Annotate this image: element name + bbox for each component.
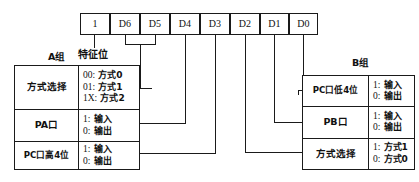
table-row: PA口 1: 输入 0: 输出 xyxy=(15,110,139,142)
group-b-row-pcl-values: 1: 输入 0: 输出 xyxy=(369,76,414,106)
value-code: 0: xyxy=(373,154,380,164)
bit-cell-bit3: D3 xyxy=(200,13,230,35)
value-text: 输入 xyxy=(384,111,402,121)
value-line: 00: 方式0 xyxy=(83,70,123,82)
value-line: 0: 输出 xyxy=(373,91,402,103)
connector-bit4-vertical xyxy=(185,35,186,124)
bit-cell-label: D5 xyxy=(149,19,162,29)
connector-bit2-vertical xyxy=(245,35,246,153)
bit-cell-label: 1 xyxy=(92,19,97,29)
connector-bit2-horizontal xyxy=(245,152,302,153)
value-text: 输入 xyxy=(384,80,402,90)
group-b-row-pb-values: 1: 输入 0: 输出 xyxy=(369,107,414,137)
value-text: 方式0 xyxy=(98,70,122,80)
value-text: 方式1 xyxy=(384,142,408,152)
group-b-row-mode-values: 1: 方式1 0: 方式0 xyxy=(369,139,414,169)
value-text: 输出 xyxy=(384,91,402,101)
group-b-row-pb-name: PB口 xyxy=(303,107,369,137)
connector-bit1-vertical xyxy=(274,35,275,123)
group-b-row-mode-name: 方式选择 xyxy=(303,139,369,169)
bit-cell-label: D4 xyxy=(179,19,192,29)
group-a-row-pa-values: 1: 输入 0: 输出 xyxy=(79,110,139,141)
table-row: PC口低4位 1: 输入 0: 输出 xyxy=(303,76,414,107)
group-a-row-pch-values: 1: 输入 0: 输出 xyxy=(79,142,139,169)
value-code: 1: xyxy=(373,142,380,152)
connector-bit0-tick xyxy=(298,90,299,95)
table-row: PB口 1: 输入 0: 输出 xyxy=(303,107,414,138)
value-code: 1: xyxy=(83,144,90,154)
value-line: 0: 方式0 xyxy=(373,154,408,166)
value-line: 0: 输出 xyxy=(83,156,112,168)
value-code: 1: xyxy=(83,114,90,124)
connector-bit3-vertical xyxy=(215,35,216,154)
feature-bit-label: 特征位 xyxy=(78,50,108,60)
group-a-heading: A组 xyxy=(48,52,65,62)
value-code: 1: xyxy=(373,80,380,90)
bit-cell-bit5: D5 xyxy=(140,13,170,35)
value-text: 输出 xyxy=(384,122,402,132)
group-a-row-mode-values: 00: 方式0 01: 方式1 1X: 方式2 xyxy=(79,66,139,109)
group-a-row-pa-name: PA口 xyxy=(15,110,79,141)
bit-cell-label: D0 xyxy=(297,19,310,29)
value-line: 0: 输出 xyxy=(83,126,112,138)
bit-cell-bit4: D4 xyxy=(170,13,200,35)
bit-cell-bit7: 1 xyxy=(80,13,110,35)
table-row: 方式选择 1: 方式1 0: 方式0 xyxy=(303,139,414,169)
connector-bit3-horizontal xyxy=(140,153,216,154)
value-text: 方式1 xyxy=(98,82,122,92)
group-b-table: PC口低4位 1: 输入 0: 输出 PB口 1: 输入 0: 输出 方式选择 … xyxy=(302,75,415,170)
value-code: 1X: xyxy=(83,93,97,103)
value-line: 1: 方式1 xyxy=(373,142,408,154)
connector-bit1-horizontal xyxy=(274,122,302,123)
value-line: 1: 输入 xyxy=(373,80,402,92)
group-b-row-pcl-name: PC口低4位 xyxy=(303,76,369,106)
value-text: 输出 xyxy=(94,126,112,136)
bit-cell-bit2: D2 xyxy=(230,13,260,35)
connector-mode-a-horizontal xyxy=(140,88,152,89)
diagram-canvas: 1 D6 D5 D4 D3 D2 D1 D0 特征位 A组 xyxy=(0,0,419,182)
value-line: 0: 输出 xyxy=(373,122,402,134)
value-text: 方式0 xyxy=(384,154,408,164)
bit-cell-bit1: D1 xyxy=(260,13,289,35)
bit-cell-label: D6 xyxy=(119,19,132,29)
value-text: 输入 xyxy=(94,114,112,124)
value-code: 0: xyxy=(83,126,90,136)
connector-bit4-horizontal xyxy=(140,123,186,124)
bit-cell-bit6: D6 xyxy=(110,13,140,35)
group-b-heading: B组 xyxy=(352,58,369,68)
value-line: 1X: 方式2 xyxy=(83,93,125,105)
value-line: 1: 输入 xyxy=(83,144,112,156)
connector-bit7-feature xyxy=(94,35,95,48)
value-line: 1: 输入 xyxy=(373,111,402,123)
bit-cell-label: D2 xyxy=(239,19,252,29)
value-text: 输入 xyxy=(94,144,112,154)
bit-cell-label: D1 xyxy=(268,19,281,29)
group-a-table: 方式选择 00: 方式0 01: 方式1 1X: 方式2 PA口 1: 输入 0… xyxy=(14,65,140,170)
table-row: PC口高4位 1: 输入 0: 输出 xyxy=(15,142,139,169)
value-code: 0: xyxy=(373,91,380,101)
value-line: 1: 输入 xyxy=(83,114,112,126)
bit-cell-label: D3 xyxy=(209,19,222,29)
value-text: 方式2 xyxy=(100,93,124,103)
group-a-row-pch-name: PC口高4位 xyxy=(15,142,79,169)
group-a-row-mode-name: 方式选择 xyxy=(15,66,79,109)
value-code: 01: xyxy=(83,82,95,92)
value-text: 输出 xyxy=(94,156,112,166)
bit-cell-bit0: D0 xyxy=(289,13,318,35)
value-code: 1: xyxy=(373,111,380,121)
value-code: 00: xyxy=(83,70,95,80)
value-code: 0: xyxy=(83,156,90,166)
value-code: 0: xyxy=(373,122,380,132)
value-line: 01: 方式1 xyxy=(83,82,123,94)
table-row: 方式选择 00: 方式0 01: 方式1 1X: 方式2 xyxy=(15,66,139,110)
connector-mode-a-vertical xyxy=(140,44,141,89)
